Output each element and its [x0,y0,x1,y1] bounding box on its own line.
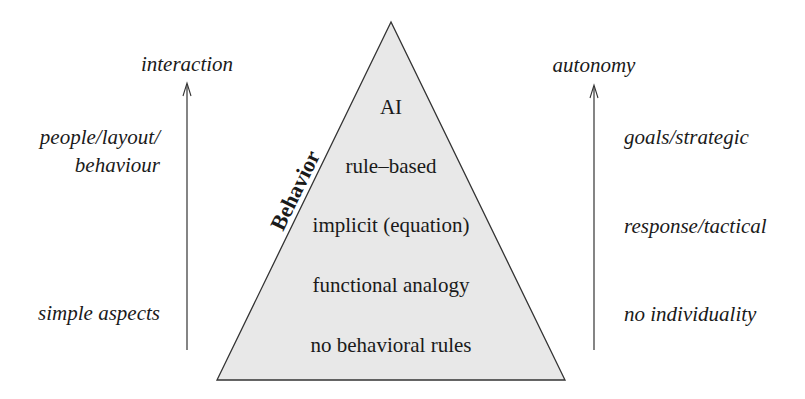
level-implicit-equation: implicit (equation) [313,213,470,237]
level-ai: AI [380,95,402,119]
pyramid-shape [217,22,565,380]
level-functional-analogy: functional analogy [313,273,470,297]
left-label-people-layout: people/layout/ [38,125,162,149]
level-no-behavioral-rules: no behavioral rules [311,333,472,357]
right-label-goals-strategic: goals/strategic [624,125,750,149]
right-label-no-individuality: no individuality [624,302,757,326]
behavior-pyramid-diagram: Behavior AI rule–based implicit (equatio… [0,0,805,399]
level-rule-based: rule–based [346,154,437,178]
left-axis-title: interaction [141,52,233,76]
left-label-behaviour: behaviour [75,153,161,177]
right-axis-title: autonomy [553,53,637,77]
left-label-simple-aspects: simple aspects [38,301,160,325]
right-label-response-tactical: response/tactical [624,214,767,238]
